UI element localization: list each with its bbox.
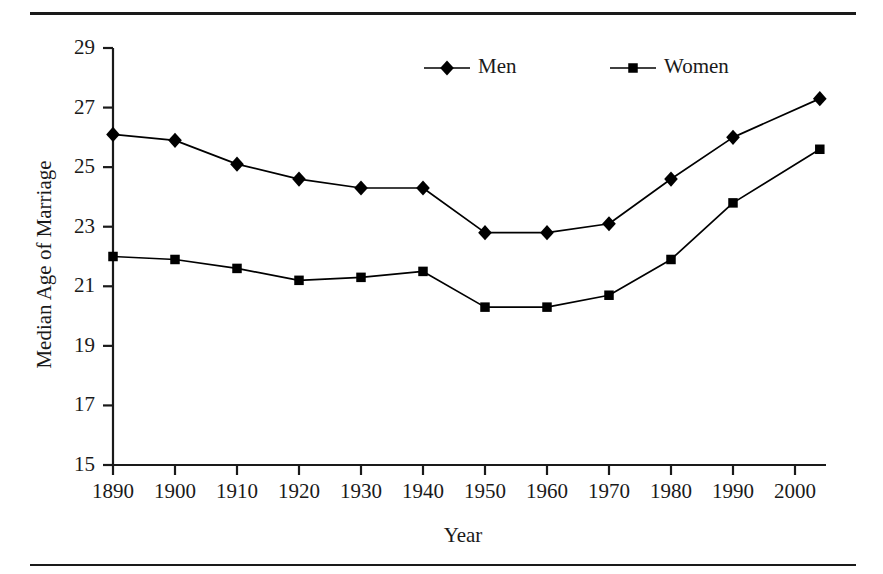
diamond-marker [106,127,120,142]
square-marker [542,302,552,312]
x-axis-tick-label: 1900 [140,479,210,504]
axes [103,48,826,475]
diamond-marker [440,60,454,75]
series-line [113,99,820,233]
series-line [113,149,820,307]
bottom-divider-rule [30,564,856,566]
y-axis-tick-label: 23 [49,214,95,239]
y-axis-tick-label: 25 [49,154,95,179]
square-marker [728,198,738,208]
diamond-marker [813,91,827,106]
x-axis-tick-label: 1910 [202,479,272,504]
y-axis-tick-label: 27 [49,95,95,120]
legend-markers [424,60,656,75]
square-marker [232,264,242,274]
x-axis-tick-label: 1990 [698,479,768,504]
diamond-marker [230,157,244,172]
x-axis-tick-label: 1940 [388,479,458,504]
square-marker [108,252,118,262]
y-axis-tick-label: 17 [49,392,95,417]
square-marker [418,267,428,277]
series-women [108,145,824,312]
diamond-marker [416,180,430,195]
x-axis-tick-label: 2000 [760,479,830,504]
series-men [106,91,826,240]
diamond-marker [726,130,740,145]
x-axis-ticks [113,465,795,475]
x-axis-tick-label: 1920 [264,479,334,504]
y-axis-tick-label: 19 [49,333,95,358]
square-marker [628,63,638,73]
x-axis-tick-label: 1960 [512,479,582,504]
square-marker [356,273,366,283]
x-axis-tick-label: 1970 [574,479,644,504]
line-chart: Median Age of Marriage Year 151719212325… [0,18,883,558]
square-marker [170,255,180,265]
diamond-marker [478,225,492,240]
x-axis-title: Year [313,523,613,548]
square-marker [294,276,304,286]
y-axis-tick-label: 29 [49,35,95,60]
x-axis-tick-label: 1930 [326,479,396,504]
square-marker [604,290,614,300]
plot-svg [0,18,883,558]
x-axis-tick-label: 1980 [636,479,706,504]
legend-label-women: Women [664,54,729,79]
x-axis-tick-label: 1890 [78,479,148,504]
y-axis-tick-label: 15 [49,452,95,477]
square-marker [480,302,490,312]
square-marker [666,255,676,265]
legend-label-men: Men [478,54,517,79]
top-divider-rule [30,12,856,15]
diamond-marker [664,171,678,186]
diamond-marker [354,180,368,195]
data-series-group [106,91,826,312]
diamond-marker [602,216,616,231]
chart-page: Median Age of Marriage Year 151719212325… [0,0,883,574]
x-axis-tick-label: 1950 [450,479,520,504]
y-axis-tick-label: 21 [49,273,95,298]
diamond-marker [292,171,306,186]
diamond-marker [168,133,182,148]
square-marker [815,145,825,155]
diamond-marker [540,225,554,240]
